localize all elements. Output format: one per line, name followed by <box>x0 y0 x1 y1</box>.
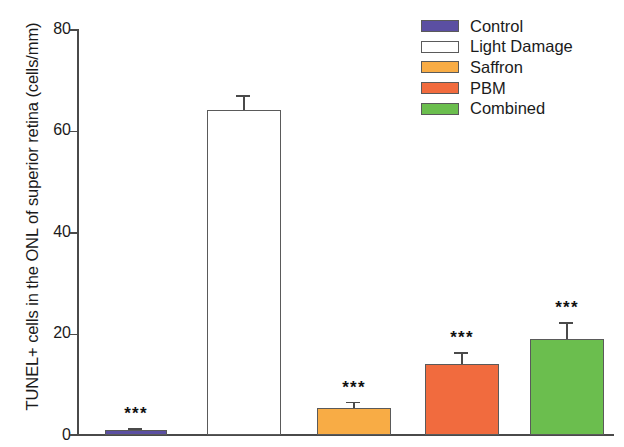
legend-item-light-damage[interactable]: Light Damage <box>421 37 621 58</box>
legend-item-saffron[interactable]: Saffron <box>421 57 621 78</box>
legend-label-light-damage: Light Damage <box>470 37 573 56</box>
significance-marker-pbm: *** <box>450 329 473 346</box>
significance-marker-saffron: *** <box>342 379 365 396</box>
error-bar-light-damage <box>243 95 244 435</box>
y-tick-20 <box>70 334 77 336</box>
y-tick-60 <box>70 131 77 133</box>
error-bar-stem <box>566 322 567 338</box>
error-bar-cap <box>559 322 573 324</box>
y-axis-line <box>77 29 79 435</box>
error-bar-control <box>135 428 136 435</box>
error-bar-cap <box>128 428 142 430</box>
y-tick-label-60: 60 <box>27 121 71 139</box>
legend-swatch-control <box>421 20 459 32</box>
figure-panel: TUNEL+ cells in the ONL of superior reti… <box>0 0 624 447</box>
y-tick-80 <box>70 29 77 31</box>
legend-swatch-light-damage <box>421 41 459 53</box>
legend: Control Light Damage Saffron PBM Combine… <box>421 16 621 119</box>
y-axis-title: TUNEL+ cells in the ONL of superior reti… <box>23 2 42 432</box>
error-bar-cap <box>454 352 468 354</box>
legend-label-pbm: PBM <box>470 79 506 98</box>
y-tick-label-20: 20 <box>27 324 71 342</box>
y-tick-label-80: 80 <box>27 20 71 38</box>
y-tick-label-0: 0 <box>27 426 71 444</box>
significance-marker-control: *** <box>124 405 147 422</box>
legend-swatch-pbm <box>421 82 459 94</box>
legend-label-combined: Combined <box>470 99 545 118</box>
legend-item-pbm[interactable]: PBM <box>421 78 621 99</box>
legend-swatch-saffron <box>421 61 459 73</box>
error-bar-stem <box>461 352 462 364</box>
legend-item-combined[interactable]: Combined <box>421 98 621 119</box>
error-bar-cap <box>236 95 250 97</box>
legend-item-control[interactable]: Control <box>421 16 621 37</box>
legend-label-control: Control <box>470 17 523 36</box>
legend-label-saffron: Saffron <box>470 58 523 77</box>
error-bar-saffron <box>353 402 354 435</box>
error-bar-combined <box>566 322 567 435</box>
significance-marker-combined: *** <box>555 299 578 316</box>
y-tick-0 <box>70 434 77 436</box>
error-bar-cap <box>346 402 360 404</box>
y-tick-40 <box>70 232 77 234</box>
error-bar-pbm <box>461 352 462 435</box>
y-tick-label-40: 40 <box>27 223 71 241</box>
error-bar-stem <box>243 95 244 110</box>
legend-swatch-combined <box>421 103 459 115</box>
